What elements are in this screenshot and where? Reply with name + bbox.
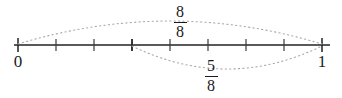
lower-arc-fraction-label: 5 8	[196, 58, 226, 95]
lower-arc-denominator: 8	[196, 78, 226, 95]
number-line-end-label: 1	[312, 53, 332, 70]
lower-arc-numerator: 5	[196, 58, 226, 75]
number-line-start-label: 0	[8, 53, 28, 70]
upper-arc-numerator: 8	[165, 4, 195, 21]
upper-arc-fraction-label: 8 8	[165, 4, 195, 41]
upper-arc-denominator: 8	[165, 24, 195, 41]
fraction-number-line-figure: 0 1 8 8 5 8	[0, 0, 342, 98]
lower-arc	[132, 46, 322, 69]
